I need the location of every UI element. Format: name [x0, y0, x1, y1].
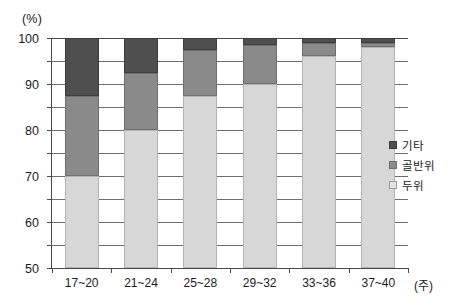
light-gray-swatch-icon: [389, 181, 397, 189]
bar-segment-기타: [124, 38, 158, 73]
gridline: [52, 153, 408, 154]
bar-segment-두위: [65, 176, 99, 268]
bar-21~24: [124, 38, 158, 268]
x-axis-tick-label: 25~28: [183, 276, 217, 290]
y-axis-tick: 30: [47, 199, 52, 200]
legend-label-breech: 골반위: [402, 157, 435, 173]
y-axis-tick: 60: [47, 130, 52, 131]
bar-segment-골반위: [243, 45, 277, 84]
bar-segment-골반위: [361, 43, 395, 48]
legend-item-head: 두위: [389, 177, 435, 193]
y-axis-tick-label: 70: [25, 170, 39, 184]
bar-segment-두위: [183, 96, 217, 269]
bar-33~36: [302, 38, 336, 268]
legend-label-head: 두위: [402, 177, 424, 193]
legend-label-other: 기타: [402, 137, 424, 153]
legend-item-other: 기타: [389, 137, 435, 153]
gridline: [52, 38, 408, 39]
bar-segment-골반위: [302, 43, 336, 57]
y-axis-tick: 40: [47, 176, 52, 177]
x-axis-tick-label: 29~32: [243, 276, 277, 290]
x-axis-tick-label: 37~40: [361, 276, 395, 290]
y-axis-tick-label: 60: [25, 216, 39, 230]
gridline: [52, 176, 408, 177]
bar-segment-두위: [243, 84, 277, 268]
bar-segment-골반위: [124, 73, 158, 131]
gridline: [52, 107, 408, 108]
bar-segment-골반위: [65, 96, 99, 177]
bar-segment-기타: [243, 38, 277, 45]
x-axis-tick: [289, 268, 290, 273]
bar-segment-두위: [302, 56, 336, 268]
bar-segment-골반위: [183, 50, 217, 96]
plot-area: 010203040506070809010017~2021~2425~2829~…: [51, 38, 408, 269]
y-axis-tick-label: 80: [25, 124, 39, 138]
bar-segment-기타: [65, 38, 99, 96]
bar-segment-두위: [124, 130, 158, 268]
x-axis-unit-label: (주): [414, 276, 433, 293]
y-axis-tick: 70: [47, 107, 52, 108]
x-axis-tick: [52, 268, 53, 273]
y-axis-tick-label: 100: [18, 32, 39, 46]
x-axis-tick-label: 17~20: [65, 276, 99, 290]
bar-17~20: [65, 38, 99, 268]
gridline: [52, 222, 408, 223]
y-axis-tick: 90: [47, 61, 52, 62]
gridline: [52, 245, 408, 246]
chart-legend: 기타 골반위 두위: [389, 137, 435, 193]
x-axis-tick-label: 33~36: [302, 276, 336, 290]
bar-segment-기타: [183, 38, 217, 50]
x-axis-tick: [171, 268, 172, 273]
y-axis-unit-label: (%): [22, 12, 42, 26]
bar-segment-기타: [361, 38, 395, 43]
x-axis-tick: [408, 268, 409, 273]
x-axis-tick-label: 21~24: [124, 276, 158, 290]
y-axis-tick: 10: [47, 245, 52, 246]
dark-gray-swatch-icon: [389, 141, 397, 149]
y-axis-tick: 20: [47, 222, 52, 223]
y-axis-tick-label: 50: [25, 262, 39, 276]
gridline: [52, 130, 408, 131]
y-axis-tick: 80: [47, 84, 52, 85]
y-axis-tick: 100: [47, 38, 52, 39]
y-axis-tick-label: 90: [25, 78, 39, 92]
x-axis-tick: [230, 268, 231, 273]
stacked-bar-chart: (%) 010203040506070809010017~2021~2425~2…: [0, 0, 457, 306]
bar-25~28: [183, 38, 217, 268]
bar-segment-기타: [302, 38, 336, 43]
bar-29~32: [243, 38, 277, 268]
mid-gray-swatch-icon: [389, 161, 397, 169]
y-axis-tick: 50: [47, 153, 52, 154]
x-axis-tick: [111, 268, 112, 273]
gridline: [52, 61, 408, 62]
gridline: [52, 199, 408, 200]
legend-item-breech: 골반위: [389, 157, 435, 173]
x-axis-tick: [349, 268, 350, 273]
gridline: [52, 84, 408, 85]
